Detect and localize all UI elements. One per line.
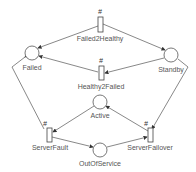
diagram-canvas: Failed Standby Active OutOfService # Fai… xyxy=(0,0,196,172)
arc-failed-serverfault-b xyxy=(12,67,44,129)
arc-standby-healthy2failed xyxy=(105,58,164,73)
transition-marker: # xyxy=(99,57,103,64)
transition-marker: # xyxy=(144,120,148,127)
place-label: Active xyxy=(90,112,109,119)
place-label: OutOfService xyxy=(79,160,121,167)
transition-marker: # xyxy=(43,120,47,127)
transition-marker: # xyxy=(98,8,102,15)
place-label: Standby xyxy=(158,66,184,74)
arc-healthy2failed-failed xyxy=(39,56,98,72)
arc-active-serverfault xyxy=(53,106,94,132)
place-label: Failed xyxy=(22,64,41,71)
transition-serverfailover[interactable]: # ServerFailover xyxy=(127,120,173,151)
transition-label: ServerFault xyxy=(32,144,68,151)
arc-serverfailover-active xyxy=(106,106,148,131)
transition-healthy2failed[interactable]: # Healthy2Failed xyxy=(78,57,125,91)
transition-serverfault[interactable]: # ServerFault xyxy=(32,120,68,151)
petri-net-diagram: Failed Standby Active OutOfService # Fai… xyxy=(0,0,196,172)
transition-failed2healthy[interactable]: # Failed2Healthy xyxy=(77,8,124,43)
transition-label: Healthy2Failed xyxy=(78,83,125,91)
place-failed[interactable]: Failed xyxy=(22,46,41,71)
transition-label: ServerFailover xyxy=(127,144,173,151)
place-outofservice[interactable]: OutOfService xyxy=(79,143,121,167)
transition-label: Failed2Healthy xyxy=(77,35,124,43)
place-active[interactable]: Active xyxy=(90,95,109,119)
